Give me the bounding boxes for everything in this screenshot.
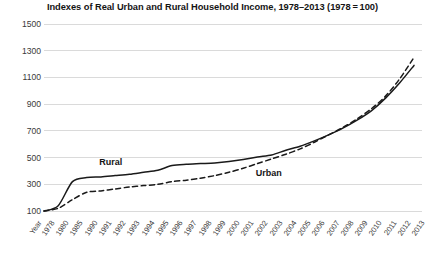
x-axis-tick-labels: Year197819801985199019911992199319941995… [0,0,425,266]
x-axis-tick-label: 1997 [182,219,199,237]
x-axis-tick-label: 2008 [339,219,356,237]
series-label-urban: Urban [256,168,282,178]
x-axis-tick-label: 1992 [111,219,128,237]
x-axis-tick-label: 2002 [253,219,270,237]
x-axis-tick-label: 1991 [97,219,114,237]
x-axis-tick-label: 2005 [296,219,313,237]
x-axis-tick-label: 1980 [54,219,71,237]
x-axis-tick-label: 1985 [68,219,85,237]
x-axis-tick-label: 2000 [225,219,242,237]
x-axis-tick-label: 2007 [324,219,341,237]
x-axis-tick-label: 1994 [139,219,156,237]
x-axis-tick-label: 2003 [267,219,284,237]
chart-figure: Indexes of Real Urban and Rural Househol… [0,0,425,266]
series-label-rural: Rural [99,157,122,167]
x-axis-tick-label: 2009 [353,219,370,237]
x-axis-tick-label: 2013 [410,219,425,237]
x-axis-tick-label: 2001 [239,219,256,237]
x-axis-tick-label: 2012 [396,219,413,237]
x-axis-tick-label: 2010 [367,219,384,237]
x-axis-tick-label: 1978 [40,219,57,237]
x-axis-tick-label: 2011 [382,219,398,237]
x-axis-tick-label: 1990 [82,219,99,237]
x-axis-tick-label: 1996 [168,219,185,237]
x-axis-tick-label: 1999 [211,219,228,237]
x-axis-tick-label: 2006 [310,219,327,237]
x-axis-tick-label: 1995 [154,219,171,237]
x-axis-tick-label: 1998 [196,219,213,237]
x-axis-tick-label: 2004 [282,219,299,237]
x-axis-tick-label: 1993 [125,219,142,237]
